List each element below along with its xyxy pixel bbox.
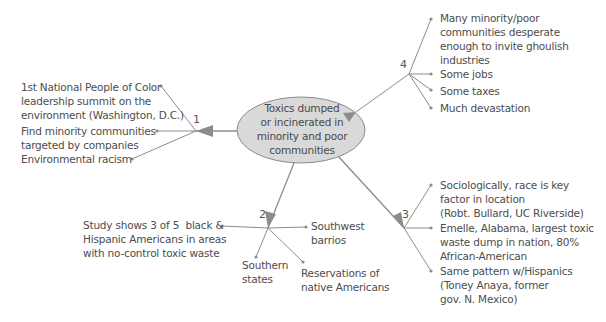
branch1-item: 1st National People of Color leadership … [21, 80, 184, 122]
branch2-item: Study shows 3 of 5 black & Hispanic Amer… [83, 218, 226, 260]
branch2-item: Southern states [242, 258, 288, 286]
arrowhead-icon [265, 211, 276, 228]
branch-number-3: 3 [402, 208, 409, 221]
branch4-item: Many minority/poor communities desperate… [440, 11, 569, 67]
branch4-item: Some taxes [440, 84, 500, 98]
branch4-item: Some jobs [440, 67, 493, 81]
branch3-item: Sociologically, race is key factor in lo… [440, 178, 584, 220]
branch1-item: Environmental racism [21, 152, 132, 166]
branch2-item: Reservations of native Americans [301, 266, 389, 294]
center-node-label: Toxics dumped or incinerated in minority… [248, 101, 356, 157]
branch-number-4: 4 [400, 58, 407, 71]
branch-number-1: 1 [193, 113, 200, 126]
branch3-item: Same pattern w/Hispanics (Toney Anaya, f… [440, 264, 573, 306]
branch2-item: Southwest barrios [311, 219, 364, 247]
branch4-item: Much devastation [440, 101, 530, 115]
arrowhead-icon [196, 125, 213, 137]
branch1-item: Find minority communities targeted by co… [21, 124, 156, 152]
branch-number-2: 2 [259, 208, 266, 221]
branch3-item: Emelle, Alabama, largest toxic waste dum… [440, 221, 594, 263]
